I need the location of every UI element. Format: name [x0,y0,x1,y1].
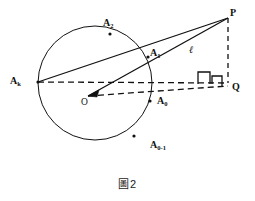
right-angle-marker-right [212,76,222,86]
arrowhead-to-o [88,90,99,97]
main-circle [38,26,152,140]
point-label-p: P [230,8,236,18]
point-marker-a2 [108,32,111,35]
point-label-a1: A1 [150,48,160,58]
figure-caption: 圖2 [0,175,255,191]
right-angle-marker-left [198,72,210,84]
point-label-ak: Ak [10,76,21,86]
point-label-a0-minus-1: A0-1 [150,140,166,150]
segment-ak-to-q-dashed [38,82,228,83]
figure-container: Ak A1 A2 A0 A0-1 P Q O ℓ 圖2 [0,0,255,201]
line-label-ell: ℓ [189,45,193,55]
point-label-q: Q [232,82,240,92]
caption-glyph: 圖 [118,178,130,191]
point-label-a2: A2 [103,18,113,28]
point-label-o: O [81,98,88,108]
figure-drawing [0,0,255,201]
point-marker-a0m1 [132,134,135,137]
point-label-a0: A0 [157,96,167,106]
caption-number: 2 [130,178,137,190]
point-marker-ak [36,80,39,83]
point-marker-a0 [148,99,151,102]
